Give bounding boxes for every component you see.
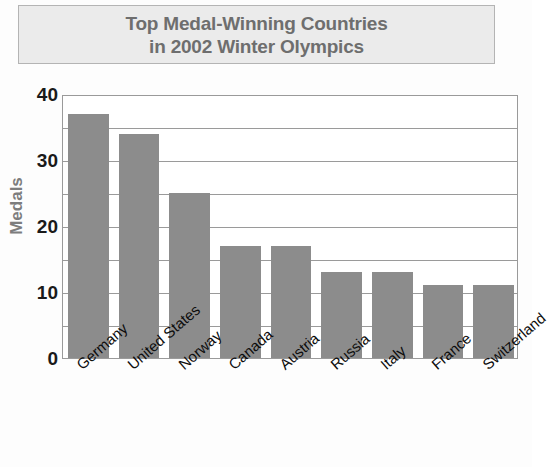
gridline-40 <box>63 95 517 96</box>
y-tick-label-0: 0 <box>12 349 58 368</box>
chart-title-banner: Top Medal-Winning Countries in 2002 Wint… <box>18 5 495 64</box>
chart-title-line-1: Top Medal-Winning Countries <box>125 12 387 35</box>
x-axis-labels: GermanyUnited StatesNorwayCanadaAustriaR… <box>62 360 518 465</box>
y-tick-label-40: 40 <box>12 85 58 104</box>
y-tick-label-30: 30 <box>12 151 58 170</box>
y-tick-label-20: 20 <box>12 217 58 236</box>
gridline-35 <box>63 128 517 129</box>
bar-germany[interactable] <box>68 114 109 358</box>
y-tick-label-10: 10 <box>12 283 58 302</box>
chart-title-line-2: in 2002 Winter Olympics <box>149 35 364 58</box>
plot-area <box>62 95 518 359</box>
y-axis-ticks: 403020100 <box>4 95 58 359</box>
